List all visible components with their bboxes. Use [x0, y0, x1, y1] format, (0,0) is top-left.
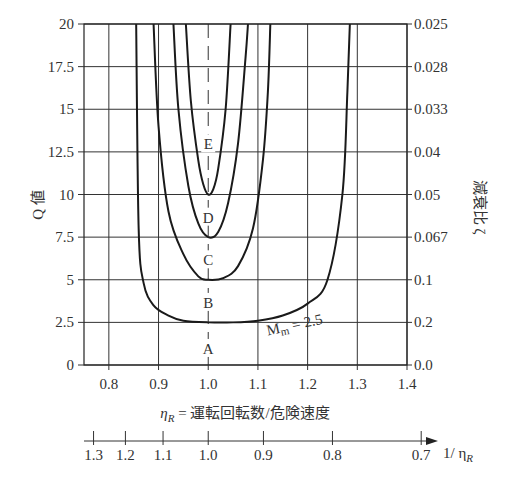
secondary-x-axis-title: 1/ ηR — [443, 445, 473, 464]
curve-d — [173, 24, 248, 238]
y-right-tick-label: 0.05 — [414, 187, 440, 203]
y-tick-label: 7.5 — [55, 229, 74, 245]
y-right-tick-label: 0.0 — [414, 357, 433, 373]
q-value-chart: 02.557.51012.51517.520 0.00.20.10.0670.0… — [0, 0, 505, 491]
x2-tick-label: 1.2 — [116, 447, 135, 463]
curve-m-m-2-5 — [136, 24, 350, 323]
y-axis-right-title: 減衰比 ζ — [472, 180, 488, 235]
y-axis-left-ticks: 02.557.51012.51517.520 — [48, 16, 84, 373]
x-tick-label: 1.0 — [199, 376, 218, 392]
y-tick-label: 17.5 — [48, 59, 74, 75]
y-right-tick-label: 0.04 — [414, 144, 441, 160]
x-tick-label: 1.3 — [348, 376, 367, 392]
x2-tick-label: 0.9 — [254, 447, 273, 463]
x2-tick-label: 1.1 — [154, 447, 173, 463]
grid-lines — [84, 24, 407, 365]
x-tick-label: 1.4 — [398, 376, 417, 392]
response-curves — [136, 24, 350, 323]
secondary-x-axis: 1.31.21.11.00.90.80.7 — [84, 431, 438, 463]
mm-label: Mm = 2.5 — [265, 311, 324, 340]
y-right-tick-label: 0.033 — [414, 101, 448, 117]
y-right-tick-label: 0.1 — [414, 272, 433, 288]
x-axis-title: ηR = 運転回転数/危険速度 — [160, 405, 329, 424]
x-axis-ticks: 0.80.91.01.11.21.31.4 — [99, 365, 416, 392]
region-label-e: E — [204, 136, 213, 152]
y-tick-label: 12.5 — [48, 144, 74, 160]
x2-tick-label: 0.7 — [412, 447, 431, 463]
y-tick-label: 5 — [67, 272, 75, 288]
y-tick-label: 20 — [59, 16, 74, 32]
region-label-b: B — [203, 295, 213, 311]
x-tick-label: 0.8 — [99, 376, 118, 392]
y-tick-label: 0 — [67, 357, 75, 373]
y-right-tick-label: 0.2 — [414, 314, 433, 330]
y-right-tick-label: 0.025 — [414, 16, 448, 32]
region-label-c: C — [203, 252, 213, 268]
y-axis-left-title: Q 値 — [30, 190, 46, 220]
region-label-d: D — [203, 210, 214, 226]
x-tick-label: 1.1 — [249, 376, 268, 392]
region-label-a: A — [203, 341, 214, 357]
y-axis-right-ticks: 0.00.20.10.0670.050.040.0330.0280.025 — [407, 16, 448, 373]
y-right-tick-label: 0.028 — [414, 59, 448, 75]
y-tick-label: 10 — [59, 187, 74, 203]
y-tick-label: 15 — [59, 101, 74, 117]
x2-tick-label: 0.8 — [323, 447, 342, 463]
y-right-tick-label: 0.067 — [414, 229, 448, 245]
x2-tick-label: 1.3 — [84, 447, 103, 463]
x-tick-label: 0.9 — [149, 376, 168, 392]
x2-tick-label: 1.0 — [199, 447, 218, 463]
y-tick-label: 2.5 — [55, 314, 74, 330]
x-tick-label: 1.2 — [298, 376, 317, 392]
